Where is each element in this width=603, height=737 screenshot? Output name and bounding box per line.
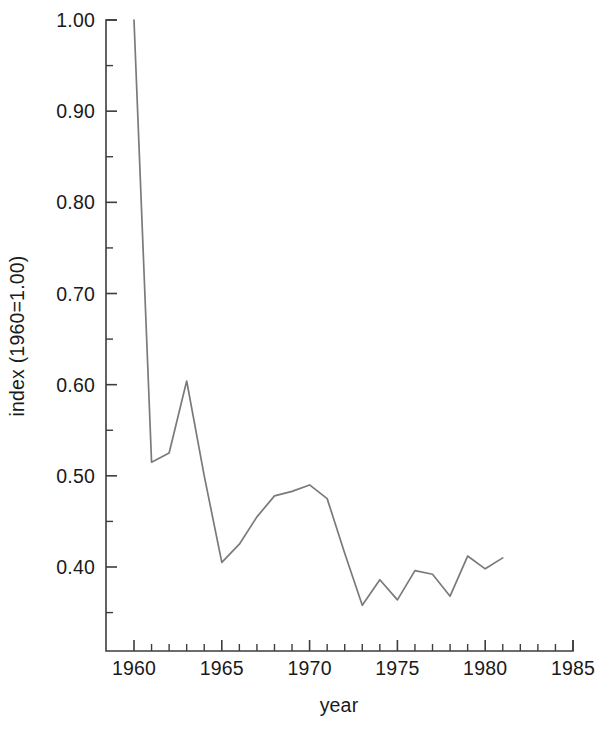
- y-tick-label: 1.00: [56, 9, 95, 31]
- y-tick-label: 0.80: [56, 191, 95, 213]
- x-axis-title: year: [320, 694, 359, 716]
- y-tick-label: 0.40: [56, 556, 95, 578]
- x-tick-label: 1970: [288, 657, 332, 679]
- data-series-line: [134, 20, 503, 605]
- x-tick-label: 1975: [375, 657, 419, 679]
- y-axis-tick-labels: 0.400.500.600.700.800.901.00: [56, 9, 95, 578]
- x-tick-label: 1965: [200, 657, 244, 679]
- chart-container: 0.400.500.600.700.800.901.00 19601965197…: [0, 0, 603, 737]
- axis-frame: [106, 20, 573, 651]
- x-axis-ticks: [134, 640, 573, 651]
- line-chart: 0.400.500.600.700.800.901.00 19601965197…: [0, 0, 603, 737]
- y-axis-title: index (1960=1.00): [6, 255, 28, 416]
- y-tick-label: 0.90: [56, 100, 95, 122]
- y-tick-label: 0.50: [56, 465, 95, 487]
- x-tick-label: 1985: [551, 657, 595, 679]
- x-tick-label: 1960: [112, 657, 156, 679]
- chart-axes: [106, 20, 573, 651]
- y-tick-label: 0.60: [56, 374, 95, 396]
- x-tick-label: 1980: [463, 657, 507, 679]
- y-tick-label: 0.70: [56, 283, 95, 305]
- x-axis-tick-labels: 196019651970197519801985: [112, 657, 595, 679]
- y-axis-ticks: [106, 20, 117, 613]
